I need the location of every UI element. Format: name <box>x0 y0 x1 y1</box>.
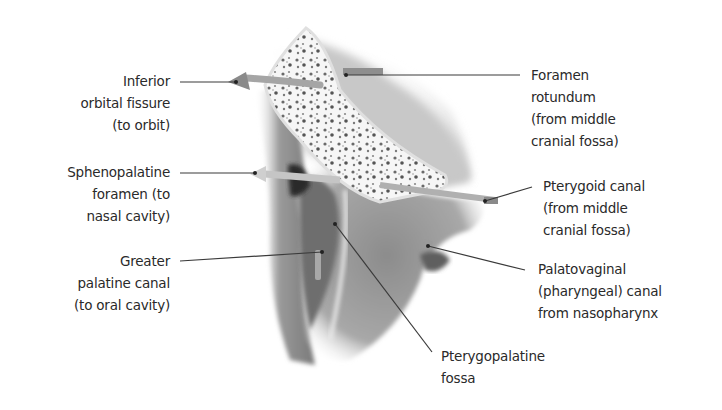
label-pterygoid-canal: Pterygoid canal (from middle cranial fos… <box>543 175 645 241</box>
label-greater-palatine-canal: Greater palatine canal (to oral cavity) <box>74 250 170 316</box>
leader-pterygoid-canal <box>485 187 532 201</box>
foramen-rotundum-marker <box>343 68 383 75</box>
label-pterygopalatine-fossa: Pterygopalatine fossa <box>441 345 545 389</box>
label-sphenopalatine-foramen: Sphenopalatine foramen (to nasal cavity) <box>67 161 170 227</box>
label-foramen-rotundum: Foramen rotundum (from middle cranial fo… <box>531 64 619 152</box>
label-inferior-orbital-fissure: Inferior orbital fissure (to orbit) <box>81 70 170 136</box>
label-palatovaginal-canal: Palatovaginal (pharyngeal) canal from na… <box>538 258 662 324</box>
